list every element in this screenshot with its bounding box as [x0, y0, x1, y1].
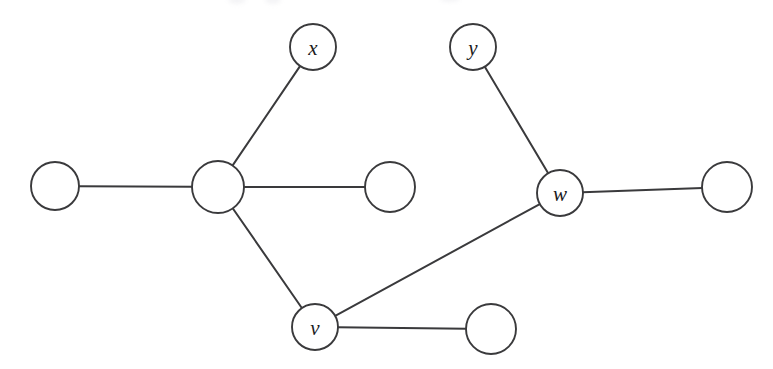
graph-node [31, 162, 79, 210]
graph-edge [485, 66, 549, 173]
graph-node-w: w [537, 170, 583, 216]
node-label: v [310, 316, 320, 340]
node-label: y [466, 36, 478, 60]
graph-edge [233, 208, 303, 309]
node-label: w [553, 182, 567, 206]
graph-node [192, 161, 244, 213]
graph-edge [232, 66, 300, 166]
node-circle [192, 161, 244, 213]
node-label: x [307, 36, 318, 60]
graph-node [466, 304, 516, 354]
graph-node [365, 162, 415, 212]
graph-node-v: v [292, 304, 338, 350]
diagram-canvas: xvyw [0, 0, 773, 369]
graph-edge [582, 188, 702, 192]
graph-node-y: y [450, 24, 496, 70]
graph-edge [337, 327, 466, 328]
graph-edge [335, 204, 541, 316]
node-circle [702, 162, 752, 212]
graph-node-x: x [290, 24, 336, 70]
graph-figure: xvyw [0, 0, 773, 369]
graph-node [702, 162, 752, 212]
graph-edge [78, 186, 192, 187]
node-circle [31, 162, 79, 210]
node-circle [466, 304, 516, 354]
node-circle [365, 162, 415, 212]
